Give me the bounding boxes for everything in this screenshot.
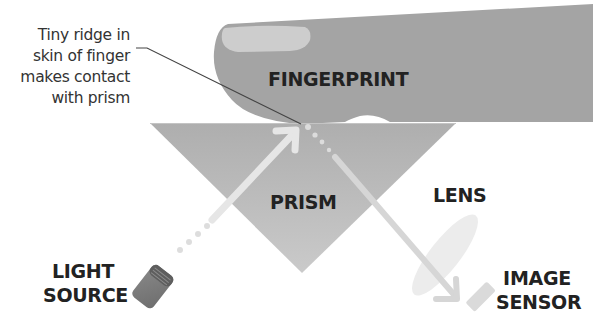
ridge-annotation: Tiny ridge in skin of finger makes conta… [0, 25, 130, 109]
annotation-line-3: makes contact [0, 67, 130, 88]
prism-label: PRISM [270, 190, 337, 214]
annotation-line-1: Tiny ridge in [0, 25, 130, 46]
finger [214, 4, 593, 124]
annotation-line-2: skin of finger [0, 46, 130, 67]
light-source-label-line-2: SOURCE [43, 283, 123, 307]
light-source-label-line-1: LIGHT [43, 259, 123, 283]
light-source-label: LIGHT SOURCE [43, 259, 123, 307]
annotation-line-4: with prism [0, 88, 130, 109]
light-source [130, 263, 175, 311]
lens-label: LENS [433, 183, 486, 207]
fingernail [222, 26, 311, 52]
image-sensor-label: IMAGE SENSOR [496, 266, 578, 314]
finger-shape [214, 4, 593, 124]
fingerprint-label: FINGERPRINT [268, 67, 408, 91]
image-sensor [465, 281, 495, 311]
image-sensor-label-line-2: SENSOR [496, 290, 578, 314]
lens [402, 206, 487, 303]
image-sensor-label-line-1: IMAGE [496, 266, 578, 290]
